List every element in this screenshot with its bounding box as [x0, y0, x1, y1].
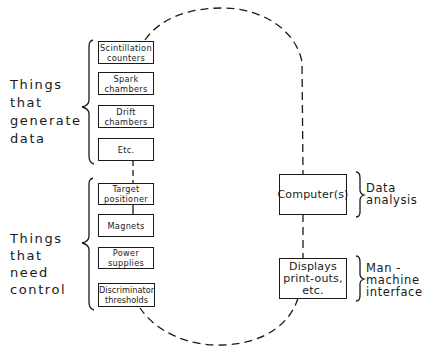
- brace-need-control: [82, 178, 94, 310]
- group-label-need-control: Things that need control: [10, 230, 66, 298]
- role-label-man-machine-interface: Man - machine interface: [366, 262, 423, 298]
- group-label-generate-data: Things that generate data: [10, 76, 82, 148]
- brace-man-machine: [356, 256, 364, 301]
- box-displays: Displays print-outs, etc.: [279, 258, 347, 299]
- box-scintillation-counters: Scintillation counters: [98, 41, 154, 64]
- connector-lines: [0, 0, 425, 357]
- box-magnets: Magnets: [98, 214, 154, 237]
- dashed-link-sensors-to-computer: [145, 8, 303, 174]
- box-target-positioner: Target positioner: [98, 183, 154, 205]
- box-drift-chambers: Drift chambers: [98, 105, 154, 128]
- box-spark-chambers: Spark chambers: [98, 72, 154, 95]
- role-label-data-analysis: Data analysis: [366, 182, 417, 206]
- brace-data-analysis: [356, 172, 364, 217]
- box-discriminator-thresholds: Discriminator thresholds: [98, 283, 155, 307]
- box-power-supplies: Power supplies: [98, 247, 154, 269]
- brace-generate-data: [82, 40, 94, 164]
- dashed-link-displays-to-discriminator: [140, 298, 298, 345]
- box-etc: Etc.: [98, 138, 154, 161]
- box-computers: Computer(s): [279, 174, 347, 215]
